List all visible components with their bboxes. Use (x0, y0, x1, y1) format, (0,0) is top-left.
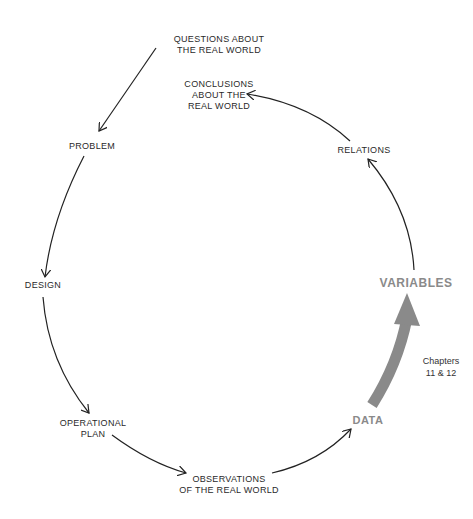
node-text: CONCLUSIONS (184, 79, 253, 90)
arrowhead-variables-highlight (394, 293, 420, 326)
node-design: DESIGN (25, 280, 61, 291)
node-data: DATA (353, 414, 384, 426)
arrow-operational-plan-to-observations (112, 435, 186, 473)
node-text: PROBLEM (69, 141, 115, 152)
note-text: 11 & 12 (423, 367, 460, 379)
node-observations-of-real-world: OBSERVATIONS OF THE REAL WORLD (179, 474, 279, 496)
arrow-data-to-variables-highlight (372, 318, 407, 405)
node-text: ABOUT THE (184, 90, 253, 101)
chapters-note: Chapters 11 & 12 (423, 355, 460, 379)
node-text: DESIGN (25, 280, 61, 291)
node-conclusions-about-real-world: CONCLUSIONS ABOUT THE REAL WORLD (184, 79, 253, 112)
arrow-variables-to-relations (368, 159, 414, 270)
node-text: OF THE REAL WORLD (179, 485, 279, 496)
research-cycle-diagram: QUESTIONS ABOUT THE REAL WORLD CONCLUSIO… (0, 0, 473, 519)
note-text: Chapters (423, 355, 460, 367)
arrow-observations-to-data (272, 429, 351, 473)
arrow-problem-to-design (45, 156, 84, 277)
node-text: QUESTIONS ABOUT (174, 34, 265, 45)
node-text: THE REAL WORLD (174, 45, 265, 56)
node-problem: PROBLEM (69, 141, 115, 152)
arrows-layer (0, 0, 473, 519)
arrow-questions-to-problem (99, 48, 156, 131)
arrow-design-to-operational-plan (43, 297, 89, 413)
node-text: OBSERVATIONS (179, 474, 279, 485)
node-text: PLAN (60, 429, 127, 440)
node-variables: VARIABLES (380, 276, 453, 290)
node-text: OPERATIONAL (60, 418, 127, 429)
node-operational-plan: OPERATIONAL PLAN (60, 418, 127, 440)
node-text: RELATIONS (337, 145, 390, 156)
node-relations: RELATIONS (337, 145, 390, 156)
node-questions-about-real-world: QUESTIONS ABOUT THE REAL WORLD (174, 34, 265, 56)
node-text: REAL WORLD (184, 101, 253, 112)
arrow-relations-to-conclusions (247, 94, 350, 141)
